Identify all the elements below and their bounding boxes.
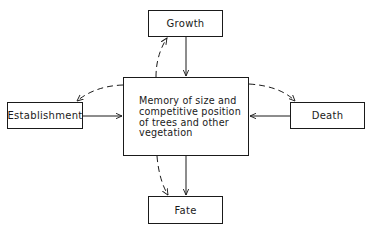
edge-memory-to-death-dashed (249, 84, 295, 101)
edge-memory-to-growth-dashed (156, 38, 167, 77)
node-death: Death (290, 102, 365, 129)
node-memory-label: Memory of size and competitive position … (139, 96, 244, 139)
node-memory: Memory of size and competitive position … (123, 77, 249, 156)
edge-memory-to-establishment-dashed (77, 85, 123, 101)
node-establishment-label: Establishment (7, 110, 82, 121)
node-fate: Fate (148, 196, 223, 224)
node-establishment: Establishment (7, 102, 83, 129)
node-growth: Growth (148, 10, 223, 37)
node-death-label: Death (312, 110, 344, 121)
node-fate-label: Fate (174, 205, 196, 216)
edge-memory-to-fate-dashed (157, 156, 168, 195)
node-growth-label: Growth (167, 18, 205, 29)
